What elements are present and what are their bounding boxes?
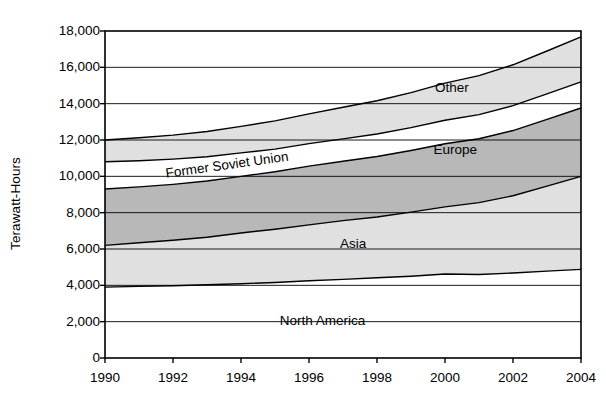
x-tick-label-1996: 1996 <box>294 371 324 385</box>
x-tick-label-1990: 1990 <box>90 371 120 385</box>
series-label-asia: Asia <box>340 238 366 252</box>
x-tick-label-2000: 2000 <box>430 371 460 385</box>
x-tick-label-2004: 2004 <box>566 371 596 385</box>
x-tick-label-1994: 1994 <box>226 371 256 385</box>
x-axis-tick-labels: 19901992199419961998200020022004 <box>0 0 606 407</box>
x-tick-label-2002: 2002 <box>498 371 528 385</box>
x-tick-label-1998: 1998 <box>362 371 392 385</box>
series-label-other: Other <box>435 81 469 95</box>
series-label-north-america: North America <box>280 314 366 328</box>
series-label-europe: Europe <box>433 143 477 157</box>
area-chart: Terawatt-Hours 18,00016,00014,00012,0001… <box>0 0 606 407</box>
x-tick-label-1992: 1992 <box>158 371 188 385</box>
